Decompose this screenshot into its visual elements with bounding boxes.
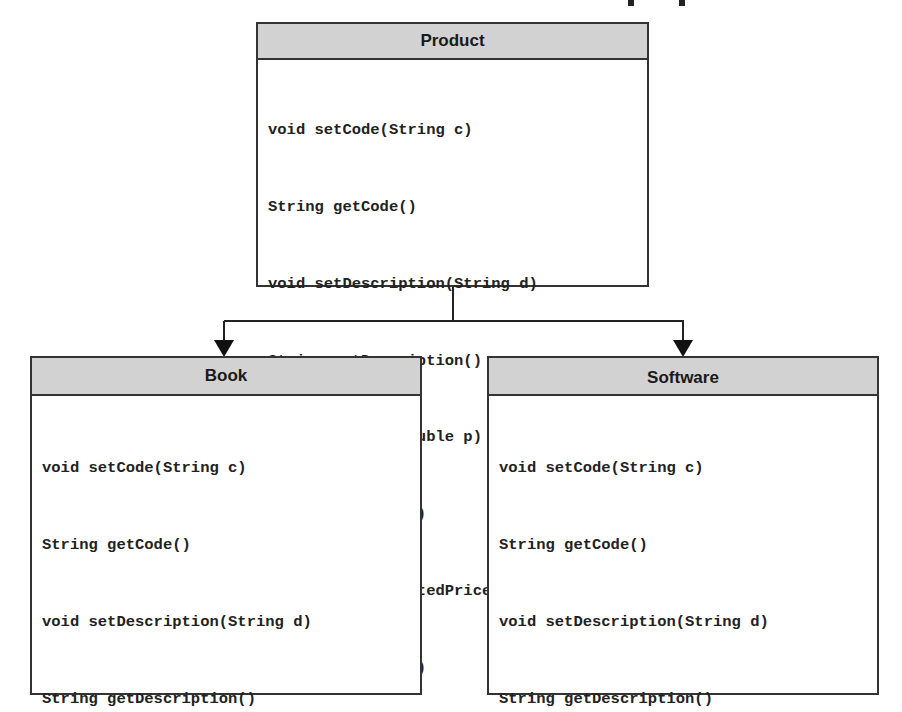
arrowhead-book-icon [214,340,234,357]
class-product-name: Product [258,24,647,60]
class-software: Software void setCode(String c) String g… [487,356,879,695]
method: String getDescription() [499,687,877,712]
class-book: Book void setCode(String c) String getCo… [30,356,422,695]
method: void setCode(String c) [499,456,877,482]
method: String getCode() [42,533,420,559]
class-software-methods: void setCode(String c) String getCode() … [489,396,877,712]
class-book-name: Book [32,358,420,396]
class-book-methods: void setCode(String c) String getCode() … [32,396,420,712]
method: void setDescription(String d) [268,272,647,298]
method: String getCode() [499,533,877,559]
method: String getCode() [268,195,647,221]
class-software-name: Software [489,358,877,396]
class-product: Product void setCode(String c) String ge… [256,22,649,287]
method: String getDescription() [42,687,420,712]
arrowhead-software-icon [673,340,693,357]
method: void setDescription(String d) [42,610,420,636]
method: void setCode(String c) [42,456,420,482]
method: void setCode(String c) [268,118,647,144]
method: void setDescription(String d) [499,610,877,636]
